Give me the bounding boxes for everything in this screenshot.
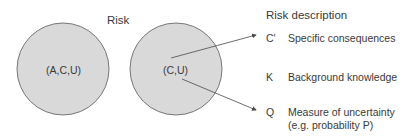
background-knowledge-text: Background knowledge — [288, 71, 397, 83]
symbol-q: Q — [266, 106, 274, 118]
consequences-text: Specific consequences — [288, 32, 395, 44]
risk-label: Risk — [107, 14, 129, 26]
left-circle-label: (A,C,U) — [46, 64, 81, 76]
symbol-k: K — [266, 71, 273, 83]
symbol-c-prime: C′ — [266, 32, 276, 44]
risk-description-title: Risk description — [266, 9, 347, 21]
right-circle-label: (C,U) — [163, 64, 188, 76]
uncertainty-subtext: (e.g. probability P) — [288, 119, 373, 131]
uncertainty-text: Measure of uncertainty — [288, 106, 395, 118]
